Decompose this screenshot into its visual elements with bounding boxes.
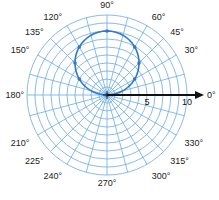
- angle-label: 45°: [170, 27, 184, 37]
- grid-spoke: [67, 95, 107, 164]
- angle-label: 210°: [11, 138, 30, 148]
- radial-tick-label: 10: [182, 97, 192, 107]
- grid-spoke: [107, 95, 128, 172]
- angle-label: 90°: [100, 0, 114, 10]
- grid-spoke: [86, 18, 107, 95]
- angle-label: 270°: [98, 178, 117, 188]
- grid-spoke: [67, 26, 107, 95]
- grid-spoke: [107, 95, 176, 135]
- curve-point: [133, 77, 137, 81]
- arrow-head-icon: [195, 91, 204, 99]
- grid-spoke: [107, 26, 147, 95]
- angle-label: 180°: [5, 90, 24, 100]
- radial-tick-labels: 510: [144, 97, 192, 107]
- grid-spoke: [107, 18, 128, 95]
- angle-label: 240°: [44, 171, 63, 181]
- curve-point: [77, 77, 81, 81]
- grid-spoke: [38, 55, 107, 95]
- curve-point: [73, 61, 77, 65]
- curve-point: [77, 45, 81, 49]
- polar-chart: 0°30°45°60°90°120°135°150°180°210°225°24…: [0, 0, 219, 200]
- curve-point: [105, 29, 109, 33]
- angle-label: 30°: [185, 45, 199, 55]
- angle-label: 330°: [185, 138, 204, 148]
- angle-label: 225°: [25, 156, 44, 166]
- angle-label: 0°: [207, 90, 216, 100]
- radial-tick-label: 5: [144, 97, 149, 107]
- angle-label: 315°: [170, 156, 189, 166]
- curve-point: [137, 61, 141, 65]
- curve-point: [133, 45, 137, 49]
- angle-label: 60°: [152, 12, 166, 22]
- angle-label: 135°: [25, 27, 44, 37]
- grid-spoke: [107, 74, 184, 95]
- angle-label: 120°: [44, 12, 63, 22]
- angle-label: 150°: [11, 45, 30, 55]
- angle-label: 300°: [152, 171, 171, 181]
- grid-spoke: [107, 95, 147, 164]
- grid-spoke: [86, 95, 107, 172]
- grid-spoke: [30, 95, 107, 116]
- grid-spoke: [107, 55, 176, 95]
- grid-spoke: [38, 95, 107, 135]
- grid-spoke: [30, 74, 107, 95]
